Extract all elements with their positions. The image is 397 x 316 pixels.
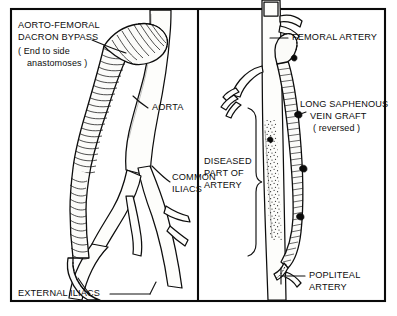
label-vein-graft-line2: VEIN GRAFT (310, 111, 367, 121)
label-diseased-line1: DISEASED (204, 156, 252, 166)
surgical-diagram-figure: AORTO-FEMORAL DACRON BYPASS ( End to sid… (0, 0, 397, 316)
label-common-iliacs-line2: ILIACS (172, 184, 202, 194)
label-vein-graft-line3: ( reversed ) (313, 123, 360, 133)
label-vein-graft-line1: LONG SAPHENOUS (300, 99, 388, 109)
label-bypass-line2: DACRON BYPASS (18, 32, 98, 42)
label-bypass-line3: ( End to side (18, 46, 70, 56)
label-external-iliacs: EXTERNAL ILIACS (18, 288, 100, 298)
label-femoral-artery: FEMORAL ARTERY (292, 32, 377, 42)
label-aorta: AORTA (152, 102, 184, 112)
label-popliteal-line1: POPLITEAL (309, 270, 360, 280)
label-bypass-line4: anastomoses ) (27, 58, 87, 68)
label-diseased-line3: ARTERY (204, 180, 242, 190)
label-diseased-line2: PART OF (204, 168, 244, 178)
label-bypass-line1: AORTO-FEMORAL (18, 20, 100, 30)
label-popliteal-line2: ARTERY (309, 282, 347, 292)
